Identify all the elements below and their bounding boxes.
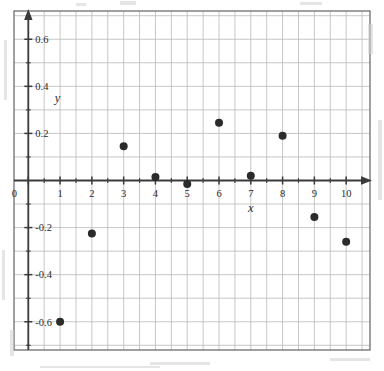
- x-tick-label: 5: [185, 188, 190, 199]
- y-tick-label: -0.6: [35, 317, 52, 328]
- data-point: [247, 172, 255, 180]
- y-tick-label: 0.4: [35, 81, 49, 92]
- x-tick-label: 2: [89, 188, 94, 199]
- data-point: [120, 142, 128, 150]
- x-tick-label: 7: [248, 188, 253, 199]
- origin-label: 0: [12, 188, 17, 199]
- x-axis-label: x: [247, 201, 254, 215]
- data-point: [279, 132, 287, 140]
- data-point: [88, 229, 96, 237]
- y-tick-label: -0.4: [35, 269, 52, 280]
- x-tick-label: 10: [341, 188, 352, 199]
- x-tick-label: 3: [121, 188, 126, 199]
- data-point: [215, 119, 223, 127]
- x-tick-label: 6: [216, 188, 221, 199]
- y-axis-label: y: [53, 91, 61, 105]
- x-tick-label: 1: [57, 188, 62, 199]
- data-point: [183, 180, 191, 188]
- chart-figure: 012345678910-0.6-0.4-0.20.20.40.6yx: [0, 0, 384, 371]
- x-tick-label: 8: [280, 188, 285, 199]
- data-point: [342, 238, 350, 246]
- x-tick-label: 4: [153, 188, 159, 199]
- y-tick-label: -0.2: [35, 222, 52, 233]
- scatter-plot-svg: 012345678910-0.6-0.4-0.20.20.40.6yx: [0, 0, 384, 371]
- y-tick-label: 0.6: [35, 34, 48, 45]
- y-tick-label: 0.2: [35, 128, 48, 139]
- x-tick-label: 9: [312, 188, 317, 199]
- data-point: [310, 213, 318, 221]
- data-point: [56, 318, 64, 326]
- data-point: [151, 173, 159, 181]
